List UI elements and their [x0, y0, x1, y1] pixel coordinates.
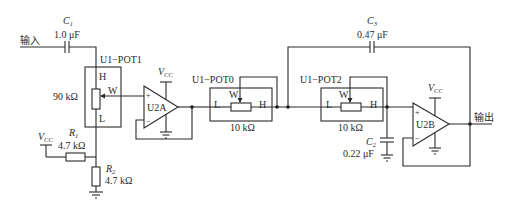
- c3-value: 0.47 μF: [357, 29, 388, 40]
- pot0-resistor: [231, 103, 251, 111]
- c1-name: C1: [63, 15, 73, 27]
- junction-dot: [275, 105, 279, 109]
- r2-value: 4.7 kΩ: [105, 175, 132, 186]
- output-label: 输出: [474, 111, 494, 123]
- c3-name: C3: [367, 15, 378, 27]
- pot0-pin-l: L: [214, 99, 220, 110]
- u2b-minus: −: [415, 134, 420, 143]
- u2a-minus: −: [146, 117, 151, 126]
- pot2-name: U1−POT2: [300, 74, 342, 85]
- junction-dot: [468, 122, 472, 126]
- u2b-plus: +: [415, 108, 420, 117]
- ground-icon: [160, 132, 172, 138]
- pot0-pin-w: W: [229, 89, 239, 100]
- c2-name: C2: [366, 136, 377, 148]
- capacitor-c1: [65, 41, 69, 53]
- circuit-diagram: 输入 C1 1.0 μF U1−POT1 H W L 90 kΩ VCC R1 …: [0, 0, 508, 214]
- vcc-r1-label: VCC: [38, 131, 53, 143]
- pot1-name: U1−POT1: [100, 54, 142, 65]
- ground-icon: [89, 192, 103, 198]
- input-label: 输入: [20, 34, 40, 46]
- r2-name: R2: [105, 163, 116, 175]
- junction-dot: [286, 105, 290, 109]
- u2a-label: U2A: [147, 102, 167, 113]
- pot1-pin-w: W: [108, 85, 118, 96]
- pot2-resistor: [341, 103, 361, 111]
- c2-value: 0.22 μF: [343, 148, 374, 159]
- pot2-pin-h: H: [370, 99, 377, 110]
- r1-name: R1: [68, 127, 78, 139]
- junction-dot: [190, 105, 194, 109]
- resistor-r2: [92, 167, 100, 186]
- pot1-pin-h: H: [99, 71, 106, 82]
- pot2-pin-l: L: [326, 99, 332, 110]
- c1-value: 1.0 μF: [54, 29, 80, 40]
- pot0-pin-h: H: [259, 99, 266, 110]
- pot2-pin-w: W: [339, 89, 349, 100]
- r1-value: 4.7 kΩ: [58, 140, 85, 151]
- vcc-r1-terminal: [40, 145, 52, 157]
- c1-to-pot1-wire: [69, 47, 96, 90]
- u2b-vcc-label: VCC: [428, 82, 443, 94]
- pot0-name: U1−POT0: [192, 74, 234, 85]
- resistor-r1: [66, 153, 85, 161]
- pot2-value: 10 kΩ: [338, 122, 363, 133]
- capacitor-c3: [370, 41, 374, 53]
- pot1-value: 90 kΩ: [53, 91, 78, 102]
- ground-icon: [381, 155, 393, 161]
- u2a-plus: +: [146, 91, 151, 100]
- u2a-vcc-label: VCC: [158, 66, 173, 78]
- pot1-pin-l: L: [99, 113, 105, 124]
- capacitor-c2: [380, 138, 394, 142]
- ground-icon: [429, 148, 441, 154]
- pot1-resistor: [92, 89, 100, 109]
- pot0-value: 10 kΩ: [230, 122, 255, 133]
- u2b-label: U2B: [416, 119, 435, 130]
